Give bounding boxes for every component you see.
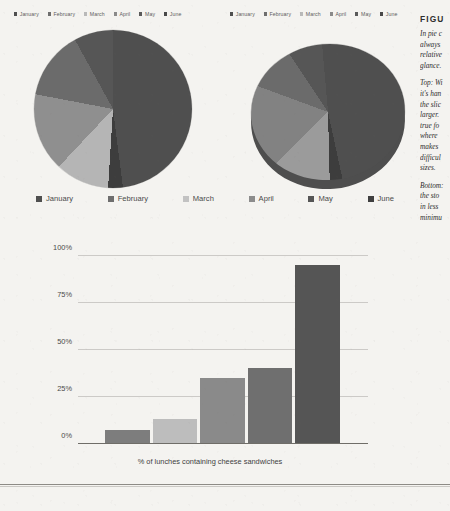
legend-label: January — [20, 11, 39, 17]
bar — [200, 378, 245, 443]
legend-label: January — [46, 194, 73, 203]
figure-caption-line: makes — [420, 142, 450, 153]
x-axis-line — [78, 443, 368, 444]
legend-label: April — [259, 194, 274, 203]
y-axis-tick-label: 50% — [57, 337, 72, 346]
figure-caption-line: the sto — [420, 191, 450, 202]
pie-3d-legend-item: April — [330, 11, 347, 17]
main-legend: JanuaryFebruaryMarchAprilMayJune — [36, 194, 394, 203]
legend-label: March — [306, 11, 321, 17]
bar — [105, 430, 150, 443]
figure-caption-line: relative — [420, 50, 450, 61]
pie-flat-legend-item: February — [48, 11, 75, 17]
footer-divider — [0, 484, 450, 485]
footer-divider-shadow — [0, 486, 450, 487]
figure-caption-line: minimu — [420, 213, 450, 224]
legend-label: February — [270, 11, 292, 17]
bar — [153, 419, 198, 443]
legend-swatch-icon — [230, 12, 233, 15]
bar — [295, 265, 340, 443]
legend-label: June — [170, 11, 182, 17]
y-axis-tick-label: 0% — [61, 431, 72, 440]
figure-caption: FIGU In pie calwaysrelativeglance.Top: W… — [420, 14, 450, 230]
book-page: JanuaryFebruaryMarchAprilMayJune January… — [0, 0, 450, 511]
legend-label: March — [193, 194, 214, 203]
bar — [248, 368, 293, 443]
figure-caption-line: larger. — [420, 110, 450, 121]
main-legend-item: January — [36, 194, 73, 203]
legend-label: May — [318, 194, 332, 203]
pie-chart-flat — [34, 30, 194, 190]
legend-swatch-icon — [368, 196, 374, 202]
x-axis-label: % of lunches containing cheese sandwiche… — [30, 457, 390, 466]
main-legend-item: May — [308, 194, 332, 203]
legend-swatch-icon — [183, 196, 189, 202]
legend-label: April — [335, 11, 346, 17]
legend-label: June — [378, 194, 394, 203]
pie-chart-3d — [248, 28, 408, 192]
legend-swatch-icon — [14, 12, 17, 15]
figure-caption-line: always — [420, 40, 450, 51]
figure-caption-line: Bottom: — [420, 181, 450, 192]
figure-caption-body: In pie calwaysrelativeglance.Top: Wiit's… — [420, 29, 450, 223]
figure-caption-line: difficul — [420, 153, 450, 164]
legend-swatch-icon — [264, 12, 267, 15]
legend-swatch-icon — [84, 12, 87, 15]
pie-flat-top-legend: JanuaryFebruaryMarchAprilMayJune — [14, 11, 181, 17]
pie-flat-legend-item: May — [139, 11, 155, 17]
figure-caption-line: glance. — [420, 61, 450, 72]
legend-swatch-icon — [355, 12, 358, 15]
pie-flat-legend-item: January — [14, 11, 39, 17]
figure-caption-heading: FIGU — [420, 14, 450, 24]
legend-swatch-icon — [249, 196, 255, 202]
legend-swatch-icon — [114, 12, 117, 15]
legend-label: June — [386, 11, 398, 17]
legend-swatch-icon — [164, 12, 167, 15]
bar-plot-area: 0%25%50%75%100% — [78, 256, 368, 444]
legend-swatch-icon — [300, 12, 303, 15]
legend-swatch-icon — [139, 12, 142, 15]
pie-flat-legend-item: April — [114, 11, 131, 17]
legend-label: March — [90, 11, 105, 17]
figure-caption-line: the slic — [420, 100, 450, 111]
legend-swatch-icon — [36, 196, 42, 202]
y-axis-tick-label: 75% — [57, 290, 72, 299]
legend-label: April — [119, 11, 130, 17]
figure-caption-line: it's han — [420, 89, 450, 100]
figure-caption-line: where — [420, 131, 450, 142]
pie-3d-legend-item: June — [380, 11, 397, 17]
main-legend-item: February — [108, 194, 148, 203]
pie-3d-top-legend: JanuaryFebruaryMarchAprilMayJune — [230, 11, 397, 17]
legend-label: February — [118, 194, 148, 203]
main-legend-item: June — [368, 194, 394, 203]
figure-caption-line: In pie c — [420, 29, 450, 40]
legend-swatch-icon — [330, 12, 333, 15]
bar-chart-lunches: 0%25%50%75%100% % of lunches containing … — [30, 248, 390, 478]
legend-swatch-icon — [48, 12, 51, 15]
legend-label: January — [236, 11, 255, 17]
figure-caption-line: Top: Wi — [420, 78, 450, 89]
pie-flat-legend-item: June — [164, 11, 181, 17]
pie-3d-legend-item: January — [230, 11, 255, 17]
legend-swatch-icon — [380, 12, 383, 15]
pie-3d-legend-item: May — [355, 11, 371, 17]
pie-flat-disc — [34, 30, 192, 188]
pie-flat-legend-item: March — [84, 11, 105, 17]
legend-label: May — [145, 11, 155, 17]
bars-group — [78, 256, 368, 443]
figure-caption-line: in less — [420, 202, 450, 213]
main-legend-item: March — [183, 194, 214, 203]
figure-caption-line: true fo — [420, 121, 450, 132]
main-legend-item: April — [249, 194, 274, 203]
y-axis-tick-label: 100% — [53, 243, 72, 252]
legend-label: February — [54, 11, 76, 17]
figure-caption-line: sizes. — [420, 163, 450, 174]
pie-3d-legend-item: March — [300, 11, 321, 17]
pie-3d-legend-item: February — [264, 11, 291, 17]
y-axis-tick-label: 25% — [57, 384, 72, 393]
legend-swatch-icon — [308, 196, 314, 202]
legend-label: May — [361, 11, 371, 17]
legend-swatch-icon — [108, 196, 114, 202]
